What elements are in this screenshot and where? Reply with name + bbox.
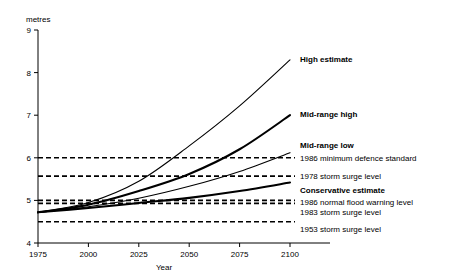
x-tick-label: 2100	[281, 250, 299, 259]
y-tick-label: 4	[27, 239, 32, 248]
y-tick-label: 6	[27, 154, 32, 163]
x-tick-label: 1975	[29, 250, 47, 259]
reference-line-label: 1953 storm surge level	[300, 225, 381, 234]
y-tick-label: 8	[27, 69, 32, 78]
series-label: Conservative estimate	[300, 186, 385, 195]
series-label: High estimate	[300, 55, 353, 64]
reference-line-label: 1978 storm surge level	[300, 172, 381, 181]
x-axis-title: Year	[156, 263, 173, 272]
series-label: Mid-range high	[300, 110, 357, 119]
reference-line-label: 1983 storm surge level	[300, 208, 381, 217]
reference-line-label: 1986 normal flood warning level	[300, 198, 413, 207]
x-tick-label: 2075	[231, 250, 249, 259]
series-curve	[38, 115, 290, 212]
x-tick-label: 2025	[130, 250, 148, 259]
y-tick-label: 5	[27, 196, 32, 205]
y-tick-label: 9	[27, 26, 32, 35]
reference-line-label: 1986 minimum defence standard	[300, 154, 417, 163]
y-tick-label: 7	[27, 111, 32, 120]
chart-canvas: 456789197520002025205020752100metresYear…	[0, 0, 463, 274]
x-tick-label: 2050	[180, 250, 198, 259]
sea-level-projection-chart: 456789197520002025205020752100metresYear…	[0, 0, 463, 274]
series-label: Mid-range low	[300, 141, 355, 150]
x-tick-label: 2000	[80, 250, 98, 259]
y-axis-title: metres	[26, 15, 50, 24]
